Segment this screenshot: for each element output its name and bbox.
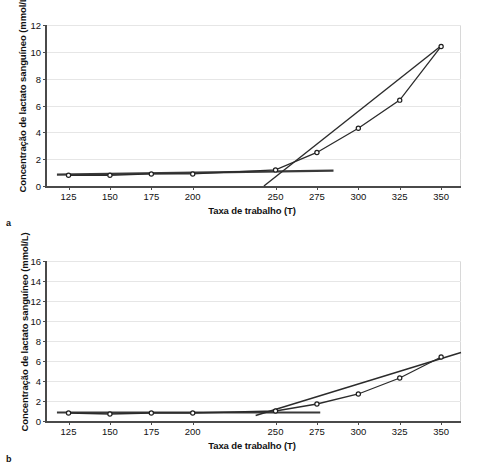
x-tick-label: 275	[309, 191, 325, 202]
data-point-marker	[191, 411, 195, 415]
data-point-marker	[149, 411, 153, 415]
data-point-marker	[398, 376, 402, 380]
data-series-line	[69, 46, 442, 175]
plot-area: 024681012125150175200250275300325350	[45, 25, 461, 188]
y-tick-label: 2	[36, 154, 41, 165]
x-tick-mark	[358, 421, 359, 425]
y-tick-label: 0	[36, 181, 41, 192]
data-point-marker	[356, 392, 360, 396]
series-layer	[47, 25, 461, 186]
x-tick-label: 150	[102, 426, 118, 437]
data-point-marker	[273, 168, 277, 172]
y-axis-label: Concentração de lactato sanguíneo (mmol/…	[17, 3, 28, 193]
panel-letter-a: a	[6, 219, 11, 228]
y-tick-mark	[43, 421, 47, 422]
x-tick-label: 250	[268, 191, 284, 202]
y-tick-mark	[43, 186, 47, 187]
y-tick-label: 6	[36, 100, 41, 111]
data-point-marker	[356, 126, 360, 130]
series-layer	[47, 261, 461, 421]
x-tick-mark	[276, 186, 277, 190]
x-tick-label: 300	[350, 426, 366, 437]
x-tick-mark	[151, 186, 152, 190]
x-tick-label: 150	[102, 191, 118, 202]
data-point-marker	[108, 173, 112, 177]
x-tick-mark	[317, 421, 318, 425]
x-tick-mark	[276, 421, 277, 425]
data-point-marker	[108, 412, 112, 416]
x-tick-label: 275	[309, 426, 325, 437]
x-tick-label: 200	[185, 191, 201, 202]
x-tick-mark	[193, 186, 194, 190]
x-tick-label: 350	[433, 426, 449, 437]
x-tick-label: 125	[61, 426, 77, 437]
x-tick-mark	[69, 421, 70, 425]
y-tick-label: 16	[30, 256, 41, 267]
y-tick-label: 14	[30, 276, 41, 287]
x-tick-label: 250	[268, 426, 284, 437]
x-tick-label: 175	[143, 191, 159, 202]
data-point-marker	[66, 173, 70, 177]
x-tick-mark	[358, 186, 359, 190]
x-axis-label: Taxa de trabalho (T)	[45, 205, 459, 216]
data-point-marker	[439, 44, 443, 48]
threshold-tangent	[264, 44, 443, 186]
x-tick-label: 350	[433, 191, 449, 202]
x-tick-mark	[441, 186, 442, 190]
figure-panel-a: Concentração de lactato sanguíneo (mmol/…	[0, 0, 488, 235]
y-axis-label: Concentração de lactato sanguíneo (mmol/…	[19, 242, 30, 432]
x-tick-mark	[69, 186, 70, 190]
x-tick-mark	[193, 421, 194, 425]
panel-letter-b: b	[6, 455, 12, 464]
data-point-marker	[66, 411, 70, 415]
y-tick-label: 10	[30, 316, 41, 327]
x-tick-mark	[151, 421, 152, 425]
x-tick-label: 125	[61, 191, 77, 202]
x-tick-label: 325	[392, 426, 408, 437]
data-point-marker	[315, 402, 319, 406]
y-tick-label: 8	[36, 73, 41, 84]
x-tick-label: 175	[143, 426, 159, 437]
x-tick-mark	[110, 421, 111, 425]
data-point-marker	[191, 172, 195, 176]
y-tick-label: 0	[36, 416, 41, 427]
x-axis-label: Taxa de trabalho (T)	[45, 440, 459, 451]
x-tick-label: 200	[185, 426, 201, 437]
y-tick-label: 6	[36, 356, 41, 367]
x-tick-mark	[317, 186, 318, 190]
data-point-marker	[439, 355, 443, 359]
data-point-marker	[149, 172, 153, 176]
y-tick-label: 4	[36, 127, 41, 138]
data-point-marker	[398, 98, 402, 102]
figure-panel-b: Concentração de lactato sanguíneo (mmol/…	[0, 235, 488, 470]
data-series-line	[69, 357, 442, 414]
data-point-marker	[273, 409, 277, 413]
y-tick-label: 4	[36, 376, 41, 387]
y-tick-label: 8	[36, 336, 41, 347]
y-tick-label: 12	[30, 20, 41, 31]
x-tick-mark	[441, 421, 442, 425]
plot-area: 0246810121416125150175200250275300325350	[45, 261, 461, 423]
y-tick-label: 12	[30, 296, 41, 307]
y-tick-label: 10	[30, 46, 41, 57]
x-tick-mark	[400, 186, 401, 190]
x-tick-label: 325	[392, 191, 408, 202]
data-point-marker	[315, 150, 319, 154]
y-tick-label: 2	[36, 396, 41, 407]
x-tick-mark	[400, 421, 401, 425]
x-tick-label: 300	[350, 191, 366, 202]
x-tick-mark	[110, 186, 111, 190]
